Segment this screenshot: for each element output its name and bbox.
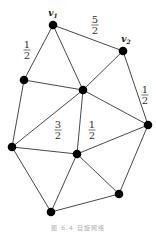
node-bottom: [47, 208, 56, 217]
node-v1: [49, 21, 58, 30]
edge-left_upper-center: [24, 80, 83, 90]
edge-v2-center: [83, 51, 123, 90]
node-lower_right: [115, 190, 124, 199]
node-far_left: [8, 143, 17, 152]
edge-mid_lower-lower_right: [77, 154, 119, 194]
svg-text:2: 2: [55, 130, 61, 141]
fraction-label: 52: [92, 14, 99, 36]
spin-network-diagram: 1252123212 v1v2: [0, 0, 156, 235]
edge-far_left-mid_lower: [12, 147, 77, 154]
fraction-label: 12: [24, 39, 31, 61]
edge-far_left-bottom: [12, 147, 51, 212]
svg-text:2: 2: [92, 25, 98, 36]
fraction-label: 12: [89, 119, 96, 141]
node-right: [144, 121, 153, 130]
figure-caption: 图 6.4 自旋网络: [0, 223, 156, 232]
fraction-label: 12: [142, 84, 149, 106]
edge-center-mid_lower: [77, 90, 83, 154]
edge-mid_lower-bottom: [51, 154, 77, 212]
svg-text:5: 5: [92, 14, 98, 25]
edges: [12, 25, 148, 212]
edge-labels: 1252123212: [24, 14, 149, 141]
edge-left_upper-far_left: [12, 80, 24, 147]
svg-text:1: 1: [142, 84, 148, 95]
fraction-label: 32: [55, 119, 62, 141]
svg-text:1: 1: [24, 39, 30, 50]
svg-text:2: 2: [89, 130, 95, 141]
edge-center-far_left: [12, 90, 83, 147]
vertex-label-v2: v2: [121, 34, 130, 45]
node-center: [79, 86, 88, 95]
svg-text:3: 3: [55, 119, 61, 130]
svg-text:2: 2: [24, 50, 30, 61]
node-left_upper: [20, 76, 29, 85]
edge-bottom-lower_right: [51, 194, 119, 212]
svg-text:2: 2: [142, 95, 148, 106]
svg-text:1: 1: [89, 119, 95, 130]
node-mid_lower: [73, 150, 82, 159]
vertex-label-v1: v1: [48, 8, 57, 19]
node-v2: [119, 47, 128, 56]
